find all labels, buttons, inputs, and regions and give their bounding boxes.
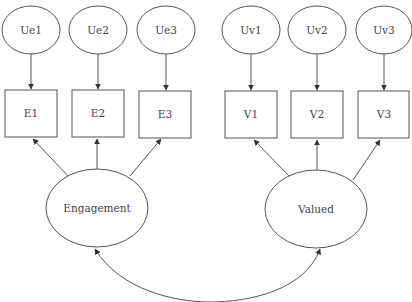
error-term-ue1: Ue1 [2,6,60,54]
latent-factor-engagement: Engagement [46,169,148,247]
arrow-valued-v1 [254,140,289,176]
latent-factor-label: Engagement [63,202,131,214]
indicator-label: V2 [309,108,324,120]
indicator-v1: V1 [225,91,277,138]
error-term-label: Uv3 [373,24,394,36]
error-term-label: Ue2 [87,24,109,36]
indicator-label: E1 [24,107,38,119]
error-term-ue2: Ue2 [69,6,127,54]
indicator-v3: V3 [358,91,409,138]
indicator-e1: E1 [5,90,57,137]
sem-diagram: Ue1 Ue2 Ue3 Uv1 Uv2 Uv3 E1 E2 E3 V1 V2 [0,0,412,302]
error-term-label: Uv1 [240,24,261,36]
error-term-uv3: Uv3 [356,6,412,54]
arrow-engagement-e3 [130,139,161,176]
error-term-ue3: Ue3 [137,6,195,54]
arrow-engagement-e1 [33,139,68,176]
error-arrows [31,54,384,90]
indicator-label: E3 [158,108,172,120]
latent-factor-label: Valued [297,203,334,215]
arrow-valued-v3 [353,140,380,180]
error-term-uv1: Uv1 [222,6,280,54]
indicator-v2: V2 [291,91,343,138]
indicator-label: E2 [91,107,105,119]
error-term-label: Ue3 [155,24,177,36]
covariance-curve-arrow [95,249,320,302]
latent-factor-valued: Valued [265,170,367,248]
indicator-e3: E3 [139,91,191,138]
indicator-label: V3 [376,108,391,120]
error-term-uv2: Uv2 [288,6,346,54]
error-term-label: Ue1 [20,24,42,36]
indicator-e2: E2 [72,90,124,137]
error-term-label: Uv2 [306,24,327,36]
indicator-label: V1 [243,108,258,120]
